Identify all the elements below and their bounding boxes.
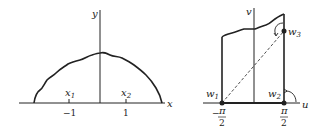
v-axis-label: v: [246, 6, 252, 17]
x-axis-label: x: [167, 98, 173, 109]
svg-text:π: π: [218, 105, 226, 116]
left-panel: x y −1 1 x1 x2: [19, 8, 173, 118]
tick-label-pi-over-2: π 2: [280, 105, 288, 128]
conformal-map-diagram: x y −1 1 x1 x2 u v w1: [0, 0, 315, 132]
svg-text:2: 2: [219, 118, 225, 128]
u-axis-label: u: [302, 99, 308, 110]
w3-label: w3: [288, 26, 302, 39]
right-panel: u v w1 w2 w3 − π 2 π: [203, 6, 308, 128]
svg-text:π: π: [280, 105, 288, 116]
boundary-curve: [34, 53, 162, 103]
w3-point: [282, 29, 287, 34]
y-axis-label: y: [91, 8, 98, 19]
tick-label-pos1: 1: [123, 108, 129, 118]
tick-label-neg1: −1: [63, 108, 76, 118]
w1-label: w1: [206, 88, 219, 101]
w2-label: w2: [268, 88, 282, 101]
tick-label-neg-pi-over-2: − π 2: [212, 105, 226, 128]
svg-text:2: 2: [281, 118, 287, 128]
w2-angle-arrow: [286, 91, 296, 102]
x1-label: x1: [65, 87, 75, 100]
x2-label: x2: [121, 87, 132, 100]
